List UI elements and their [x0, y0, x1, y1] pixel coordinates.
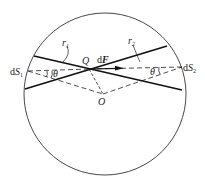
label-Q: Q [82, 55, 90, 66]
dashed-line-O-to-dS2 [103, 67, 182, 94]
leader-r2 [133, 45, 140, 62]
label-theta1: θ [53, 68, 58, 79]
angle-arc-theta2 [159, 67, 160, 74]
label-dS2: dS2 [183, 62, 196, 74]
sphere-outline [24, 13, 186, 175]
label-r1: r1 [62, 37, 69, 49]
force-arrowhead [115, 66, 124, 71]
label-r2: r2 [128, 35, 135, 47]
label-O: O [98, 96, 105, 107]
dashed-line-dS1-to-Q [28, 69, 89, 71]
label-dS1: dS1 [10, 66, 23, 78]
angle-arc-theta1 [46, 71, 47, 77]
label-dF: dF [97, 54, 109, 65]
label-theta2: θ [150, 66, 155, 77]
diagram-canvas: r1 r2 Q dF O dS1 dS2 θ θ [0, 0, 205, 190]
